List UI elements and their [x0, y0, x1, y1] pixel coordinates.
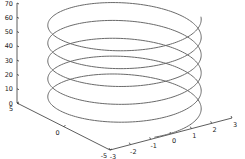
y-tick-label: -5: [101, 152, 107, 159]
z-tick-label: 20: [5, 71, 13, 79]
y-tick-label: 5: [9, 105, 13, 113]
z-tick-label: 60: [5, 14, 13, 22]
x-tick: [150, 137, 151, 139]
tick-labels: 010203040506070-505-3-2-10123: [5, 0, 237, 159]
x-tick-label: 2: [213, 126, 217, 134]
x-tick: [129, 143, 130, 145]
z-tick-label: 40: [5, 42, 13, 50]
z-tick-label: 50: [5, 28, 13, 36]
x-tick: [231, 116, 232, 118]
x-tick-label: 0: [172, 137, 176, 145]
x-tick: [190, 127, 191, 129]
y-tick: [64, 126, 66, 127]
x-tick-label: -1: [150, 142, 156, 150]
z-tick-label: 10: [5, 85, 13, 93]
z-tick-label: 30: [5, 57, 13, 65]
x-tick-label: -3: [110, 153, 116, 159]
x-tick-label: -2: [130, 148, 136, 156]
z-tick-label: 70: [5, 0, 13, 8]
helix-3d-plot: 010203040506070-505-3-2-10123: [0, 0, 245, 159]
x-tick-label: 1: [192, 132, 196, 140]
x-tick: [211, 121, 212, 123]
helix-line: [48, 3, 201, 138]
x-tick-label: 3: [233, 121, 237, 129]
y-tick-label: 0: [55, 129, 59, 137]
